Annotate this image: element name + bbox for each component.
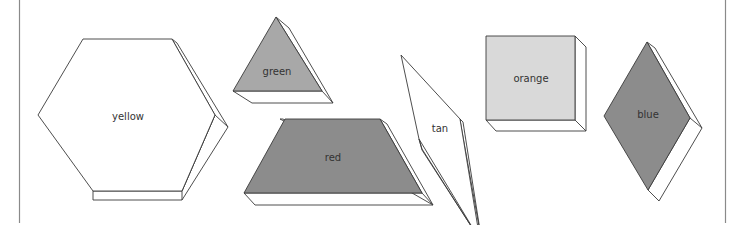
block-yellow-hexagon: yellow xyxy=(38,39,228,200)
pattern-blocks-diagram: yellow green red tan orange blue xyxy=(0,0,740,225)
label-yellow: yellow xyxy=(112,111,144,122)
label-tan: tan xyxy=(432,123,448,134)
block-blue-rhombus: blue xyxy=(604,42,702,201)
block-green-triangle: green xyxy=(233,17,333,103)
block-red-trapezoid: red xyxy=(244,119,433,205)
label-green: green xyxy=(263,66,292,77)
block-orange-square: orange xyxy=(486,36,586,131)
triangle-top-face xyxy=(233,17,322,91)
label-blue: blue xyxy=(637,109,659,120)
label-red: red xyxy=(325,152,341,163)
label-orange: orange xyxy=(513,73,548,84)
